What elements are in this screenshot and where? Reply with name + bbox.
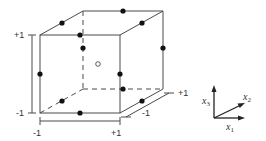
legend-x1-label: x1: [225, 121, 234, 134]
point-back-right: [160, 45, 165, 50]
x2-arrow-head-icon: [238, 103, 246, 108]
x1-arrow-head-icon: [238, 116, 245, 121]
point-bottom-back: [120, 86, 125, 91]
axis-legend: [212, 85, 246, 121]
point-front-left: [37, 71, 42, 76]
point-bottom-right-depth: [139, 98, 144, 103]
x1-label-minus1: -1: [33, 128, 41, 138]
point-top-back: [120, 8, 125, 13]
x3-label-minus1: -1: [16, 108, 24, 118]
point-front-right: [117, 71, 122, 76]
point-top-left-depth: [59, 20, 64, 25]
x2-arrow-shaft: [214, 105, 241, 118]
x3-arrow-head-icon: [212, 85, 217, 92]
point-center: [96, 62, 101, 67]
point-top-front: [77, 32, 82, 37]
cube-diagram: +1 -1 -1 +1 -1 +1 x3 x2 x1: [0, 0, 266, 141]
front-face: [40, 35, 120, 113]
point-top-right-depth: [139, 20, 144, 25]
legend-x3-label: x3: [201, 95, 210, 108]
x2-label-minus1: -1: [142, 108, 150, 118]
x3-label-plus1: +1: [14, 30, 24, 40]
x1-label-plus1: +1: [111, 128, 121, 138]
legend-x2-label: x2: [242, 91, 251, 104]
point-bottom-front: [77, 110, 82, 115]
x2-label-plus1: +1: [178, 88, 188, 98]
point-bottom-left-depth: [59, 98, 64, 103]
point-back-left: [80, 45, 85, 50]
